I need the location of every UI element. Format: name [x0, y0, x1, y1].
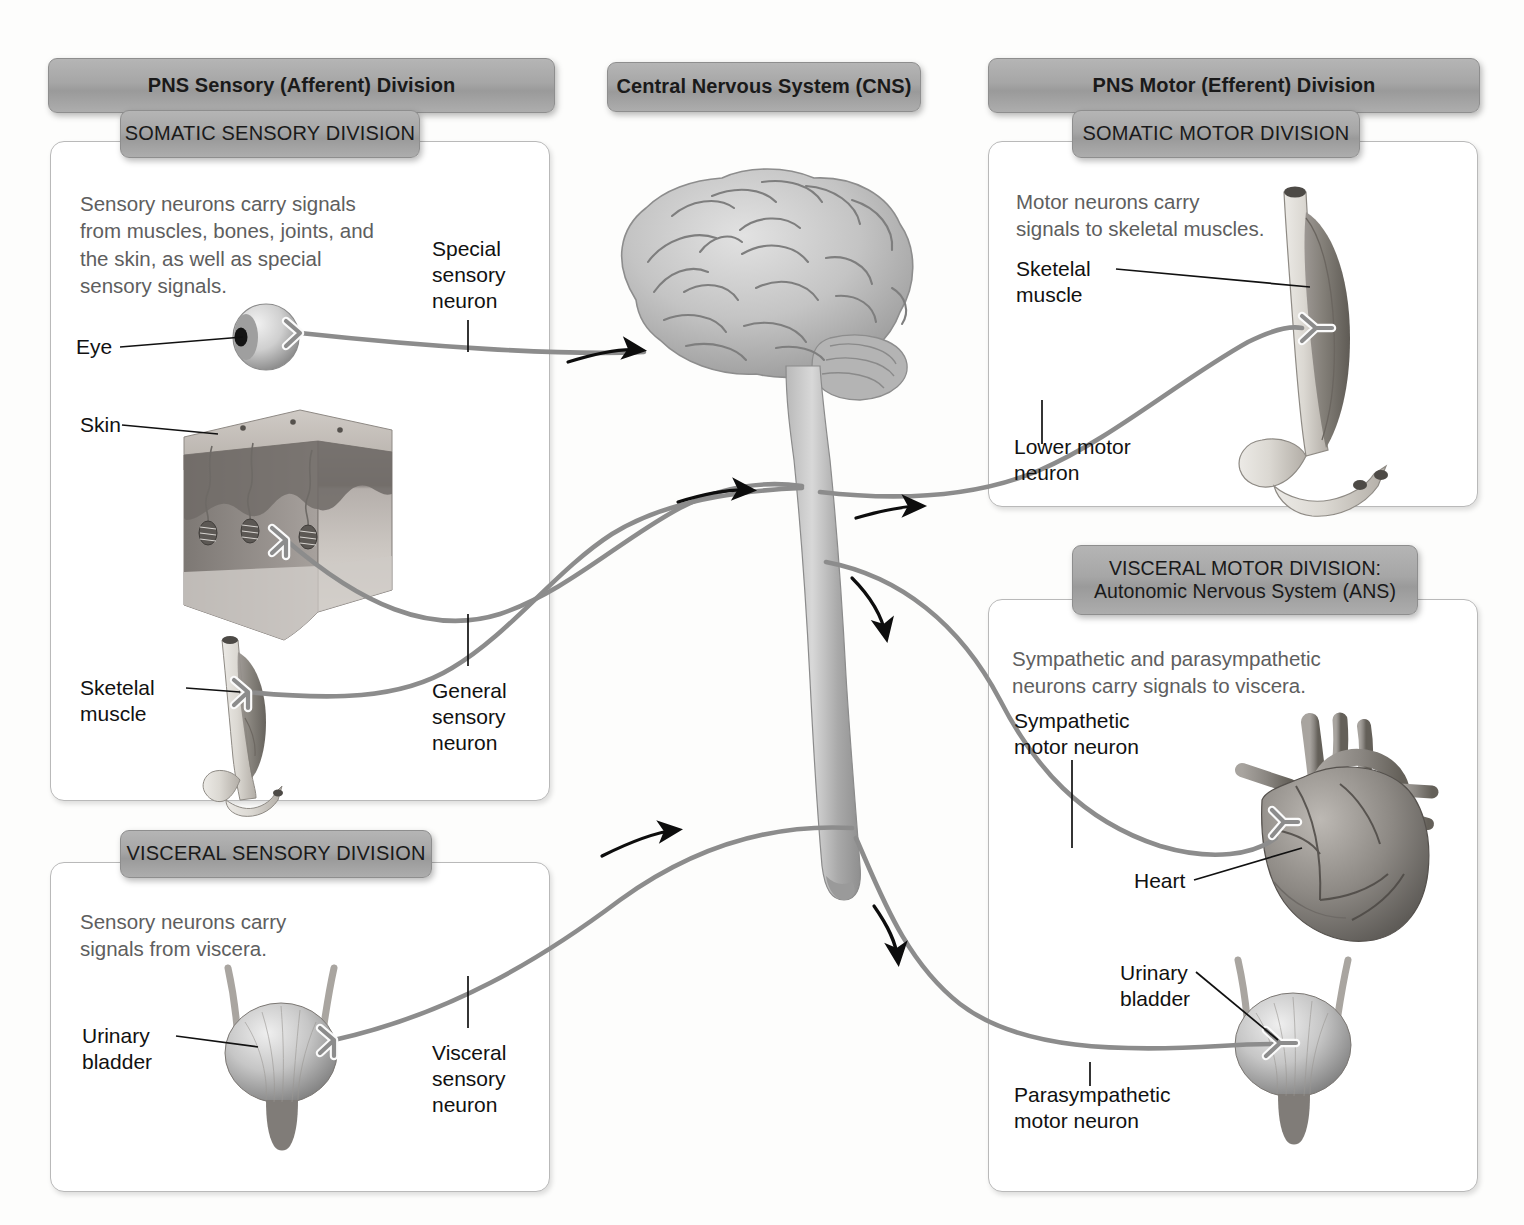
- label-parasympathetic-motor-neuron: Parasympathetic motor neuron: [1014, 1082, 1170, 1134]
- header-visceral-sensory[interactable]: VISCERAL SENSORY DIVISION: [120, 830, 432, 878]
- description-somatic-motor: Motor neurons carry signals to skeletal …: [1016, 188, 1346, 243]
- arrow-visceral-sensory: [602, 830, 676, 856]
- label-urinary-bladder-left: Urinary bladder: [82, 1023, 152, 1075]
- leader-skin: [122, 425, 218, 434]
- nervous-system-diagram: PNS Sensory (Afferent) Division Central …: [0, 0, 1524, 1225]
- header-visceral-motor[interactable]: VISCERAL MOTOR DIVISION: Autonomic Nervo…: [1072, 545, 1418, 615]
- leader-urinary-bladder-right: [1196, 972, 1278, 1040]
- general-sensory-neuron-path-muscle: [248, 488, 802, 696]
- header-pns-motor[interactable]: PNS Motor (Efferent) Division: [988, 58, 1480, 113]
- leader-eye: [120, 337, 243, 347]
- description-visceral-motor: Sympathetic and parasympathetic neurons …: [1012, 645, 1432, 700]
- description-visceral-sensory: Sensory neurons carry signals from visce…: [80, 908, 380, 963]
- parasympathetic-motor-neuron-path: [856, 838, 1276, 1048]
- leader-skeletal-muscle-right: [1116, 269, 1310, 287]
- label-skin: Skin: [80, 412, 121, 438]
- header-somatic-motor[interactable]: SOMATIC MOTOR DIVISION: [1072, 110, 1360, 158]
- label-skeletal-muscle-right: Sketelal muscle: [1016, 256, 1091, 308]
- arrow-somatic-motor: [856, 506, 920, 518]
- leader-urinary-bladder-left: [176, 1036, 258, 1047]
- header-somatic-sensory[interactable]: SOMATIC SENSORY DIVISION: [120, 110, 420, 158]
- label-skeletal-muscle-left: Sketelal muscle: [80, 675, 155, 727]
- description-somatic-sensory: Sensory neurons carry signals from muscl…: [80, 190, 390, 300]
- special-sensory-terminal: [286, 321, 300, 346]
- header-cns[interactable]: Central Nervous System (CNS): [607, 62, 921, 112]
- general-sensory-terminal-muscle: [234, 680, 248, 708]
- header-visceral-motor-line1: VISCERAL MOTOR DIVISION:: [1109, 557, 1381, 580]
- arrow-parasympathetic: [874, 906, 898, 960]
- general-sensory-neuron-path-skin: [286, 484, 802, 621]
- general-sensory-terminal-skin: [272, 528, 286, 556]
- label-eye: Eye: [76, 334, 112, 360]
- sympathetic-terminal: [1272, 810, 1298, 836]
- header-pns-sensory[interactable]: PNS Sensory (Afferent) Division: [48, 58, 555, 113]
- label-special-sensory-neuron: Special sensory neuron: [432, 236, 506, 314]
- label-urinary-bladder-right: Urinary bladder: [1120, 960, 1190, 1012]
- label-visceral-sensory-neuron: Visceral sensory neuron: [432, 1040, 506, 1118]
- leader-skeletal-muscle-left: [186, 688, 240, 692]
- label-sympathetic-motor-neuron: Sympathetic motor neuron: [1014, 708, 1139, 760]
- somatic-motor-terminal: [1302, 316, 1332, 341]
- label-lower-motor-neuron: Lower motor neuron: [1014, 434, 1131, 486]
- visceral-sensory-terminal: [320, 1028, 334, 1056]
- arrow-sympathetic: [852, 578, 886, 636]
- label-heart: Heart: [1134, 868, 1185, 894]
- label-general-sensory-neuron: General sensory neuron: [432, 678, 507, 756]
- special-sensory-neuron-path: [300, 333, 644, 353]
- header-visceral-motor-line2: Autonomic Nervous System (ANS): [1094, 580, 1396, 603]
